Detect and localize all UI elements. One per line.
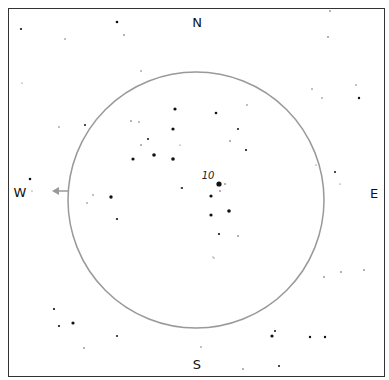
star xyxy=(92,194,93,195)
star xyxy=(329,10,331,12)
star xyxy=(229,140,231,142)
star xyxy=(152,153,156,157)
star xyxy=(130,120,132,122)
star xyxy=(200,346,201,347)
star xyxy=(58,126,59,127)
star xyxy=(327,36,329,38)
star xyxy=(123,34,125,36)
star xyxy=(116,21,119,24)
star xyxy=(339,183,340,184)
star xyxy=(53,308,55,310)
star xyxy=(109,195,112,198)
star xyxy=(58,325,60,327)
star xyxy=(138,121,139,122)
east-label: E xyxy=(370,186,378,201)
motion-arrow-icon xyxy=(52,187,68,195)
field-of-view-circle xyxy=(68,72,324,328)
star xyxy=(340,271,342,273)
star xyxy=(219,190,221,192)
star xyxy=(147,138,149,140)
star xyxy=(334,171,336,173)
south-label: S xyxy=(193,357,201,372)
star xyxy=(212,256,213,257)
star xyxy=(213,257,214,258)
stars-layer xyxy=(20,10,365,370)
star xyxy=(358,97,360,99)
star xyxy=(270,334,273,337)
west-label: W xyxy=(14,185,27,200)
star xyxy=(86,202,87,203)
star xyxy=(315,164,316,165)
star xyxy=(29,178,32,181)
star xyxy=(71,321,74,324)
star xyxy=(237,128,239,130)
star xyxy=(237,235,239,237)
star xyxy=(173,107,176,110)
star xyxy=(218,233,220,235)
star xyxy=(31,190,32,191)
star xyxy=(140,144,142,146)
star-field xyxy=(0,0,389,380)
star xyxy=(274,330,276,332)
star xyxy=(363,269,365,271)
star xyxy=(179,144,180,145)
star xyxy=(140,70,141,71)
star xyxy=(216,181,221,186)
star xyxy=(171,127,174,130)
star xyxy=(246,104,247,105)
star xyxy=(83,347,85,349)
target-label: 10 xyxy=(202,170,215,181)
star xyxy=(171,157,175,161)
star xyxy=(116,335,118,337)
star xyxy=(324,336,326,338)
star xyxy=(180,187,181,188)
star xyxy=(227,209,231,213)
north-label: N xyxy=(192,15,202,30)
star xyxy=(278,365,280,367)
star xyxy=(245,149,247,151)
star xyxy=(84,124,86,126)
star xyxy=(309,336,311,338)
star xyxy=(209,194,212,197)
star xyxy=(209,213,212,216)
star xyxy=(64,38,65,39)
star xyxy=(311,88,312,89)
star xyxy=(116,218,118,220)
star xyxy=(323,276,325,278)
star xyxy=(215,112,218,115)
star xyxy=(224,183,226,185)
star xyxy=(21,82,22,83)
star xyxy=(355,84,356,85)
star xyxy=(321,97,322,98)
star xyxy=(20,28,22,30)
star xyxy=(131,157,134,160)
star xyxy=(242,368,244,370)
